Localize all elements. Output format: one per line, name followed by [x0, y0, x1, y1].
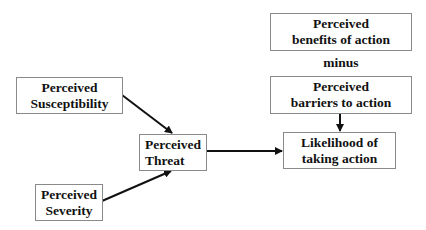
node-label-line1: Likelihood of — [301, 135, 378, 151]
node-label-line2: benefits of action — [292, 32, 390, 48]
node-label-line1: Perceived — [313, 79, 369, 95]
node-label-line2: taking action — [302, 151, 377, 167]
node-label-line1: Perceived — [42, 80, 98, 96]
node-label-line1: Perceived — [41, 187, 97, 203]
arrow-severity-to-threat — [102, 171, 171, 201]
node-label-line1: Perceived — [313, 16, 369, 32]
diagram-canvas: Perceived Susceptibility Perceived Threa… — [0, 0, 426, 230]
node-perceived-barriers: Perceived barriers to action — [270, 76, 412, 114]
node-perceived-threat: Perceived Threat — [139, 134, 207, 171]
node-label-line1: Perceived — [145, 137, 201, 153]
arrow-susceptibility-to-threat — [122, 95, 172, 133]
node-likelihood-of-action: Likelihood of taking action — [283, 132, 396, 169]
node-label-line2: barriers to action — [291, 95, 391, 111]
node-label-line2: Severity — [45, 203, 92, 219]
node-perceived-benefits: Perceived benefits of action — [270, 13, 412, 51]
node-perceived-susceptibility: Perceived Susceptibility — [16, 77, 123, 114]
node-label-line2: Threat — [145, 153, 185, 169]
node-perceived-severity: Perceived Severity — [35, 184, 103, 221]
node-label-line2: Susceptibility — [30, 96, 108, 112]
minus-operator-label: minus — [270, 55, 412, 71]
